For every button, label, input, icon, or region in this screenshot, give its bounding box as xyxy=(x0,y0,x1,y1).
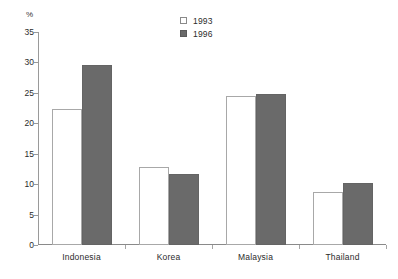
bar-malaysia-1996 xyxy=(256,94,286,245)
bar-group xyxy=(212,32,299,245)
bar-indonesia-1993 xyxy=(52,109,82,245)
legend-item-1993: 1993 xyxy=(180,14,300,27)
y-tick-label: 10 xyxy=(25,179,34,189)
category-label-indonesia: Indonesia xyxy=(38,252,125,262)
category-separator xyxy=(299,245,300,249)
y-tick-label: 0 xyxy=(29,240,34,250)
y-tick-label: 25 xyxy=(25,88,34,98)
y-tick-label: 20 xyxy=(25,118,34,128)
bar-thailand-1993 xyxy=(313,192,343,245)
y-axis-unit-label: % xyxy=(26,10,33,19)
y-tick-label: 5 xyxy=(29,210,34,220)
bar-thailand-1996 xyxy=(343,183,373,245)
y-tick-label: 35 xyxy=(25,27,34,37)
category-separator xyxy=(212,245,213,249)
bar-group xyxy=(125,32,212,245)
bar-korea-1993 xyxy=(139,167,169,245)
category-separator xyxy=(125,245,126,249)
y-tick-label: 15 xyxy=(25,149,34,159)
legend-label-1993: 1993 xyxy=(193,16,213,26)
bar-chart: % 1993 1996 35302520151050 IndonesiaKore… xyxy=(0,0,398,279)
category-label-malaysia: Malaysia xyxy=(212,252,299,262)
y-tick-label: 30 xyxy=(25,57,34,67)
bar-malaysia-1993 xyxy=(226,96,256,245)
category-label-korea: Korea xyxy=(125,252,212,262)
category-separator xyxy=(386,245,387,249)
y-tick-mark xyxy=(34,245,38,246)
bar-group xyxy=(299,32,386,245)
bar-groups xyxy=(38,32,386,245)
bar-korea-1996 xyxy=(169,174,199,245)
bar-indonesia-1996 xyxy=(82,65,112,245)
bar-group xyxy=(38,32,125,245)
category-label-thailand: Thailand xyxy=(299,252,386,262)
hollow-square-icon xyxy=(180,17,187,24)
plot-area: 35302520151050 xyxy=(38,32,386,245)
